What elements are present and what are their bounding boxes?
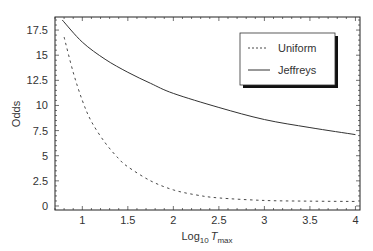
y-tick-label: 17.5 xyxy=(27,24,48,36)
y-tick-label: 2.5 xyxy=(33,175,48,187)
x-axis-label: Log10Tmax xyxy=(181,230,232,245)
x-axis-label-sub2: max xyxy=(217,236,232,245)
x-tick-label: 2 xyxy=(170,214,176,226)
y-tick-label: 15 xyxy=(36,49,48,61)
legend-label-jeffreys: Jeffreys xyxy=(278,64,317,76)
x-tick-label: 4 xyxy=(352,214,358,226)
x-tick-label: 1.5 xyxy=(120,214,135,226)
y-tick-label: 0 xyxy=(42,200,48,212)
y-tick-label: 10 xyxy=(36,99,48,111)
legend: Uniform Jeffreys xyxy=(240,33,338,88)
x-axis-label-base: Log xyxy=(181,230,199,242)
legend-box xyxy=(240,33,335,85)
x-tick-label: 2.5 xyxy=(211,214,226,226)
y-tick-label: 12.5 xyxy=(27,74,48,86)
x-tick-label: 3.5 xyxy=(302,214,317,226)
y-tick-label: 7.5 xyxy=(33,125,48,137)
x-tick-label: 3 xyxy=(261,214,267,226)
x-tick-label: 1 xyxy=(79,214,85,226)
y-tick-label: 5 xyxy=(42,150,48,162)
y-axis-label: Odds xyxy=(10,100,22,127)
legend-label-uniform: Uniform xyxy=(278,42,317,54)
x-axis-label-sub1: 10 xyxy=(200,236,209,245)
odds-chart: 11.522.533.5402.557.51012.51517.5 Unifor… xyxy=(0,0,373,251)
